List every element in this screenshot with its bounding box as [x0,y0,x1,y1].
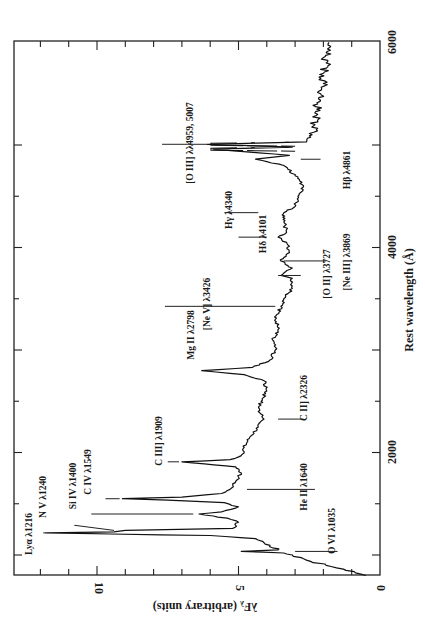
label-ovi: O VI λ1035 [327,508,337,554]
flux-tick-10: 10 [92,582,106,594]
label-ciii: C III] λ1909 [154,416,164,466]
label-oiii: [O III] λλ4959, 5007 [185,102,195,184]
label-civ: C IV λ1549 [83,449,93,495]
label-hg: Hγ λ4340 [224,191,234,229]
label-siiv: Si IV λ1400 [68,462,78,509]
label-neiii: [Ne III] λ3869 [342,233,352,290]
label-hb: Hβ λ4861 [342,151,352,190]
label-lya: Lyα λ1216 [24,513,34,555]
x-axis-title: Rest wavelength (Å) [402,248,416,351]
spectrum-chart: 0 5 10 2000 4000 6000 Rest wavelength (Å… [0,0,425,619]
label-nev: [Ne V] λ3426 [202,277,212,330]
label-mgii: Mg II λ2798 [186,310,196,360]
flux-tick-0: 0 [374,585,388,591]
wavelength-tick-6000: 6000 [385,30,399,54]
label-oii: [O II] λ3727 [322,249,332,299]
label-heii: He II λ1640 [299,463,309,511]
y-axis-title: λFλ (arbitrary units) [153,599,258,614]
label-cii: C II] λ2326 [299,375,309,421]
emission-labels: Lyα λ1216 N V λ1240 Si IV λ1400 C IV λ15… [24,102,352,555]
label-hd: Hδ λ4101 [258,215,268,254]
label-nv: N V λ1240 [38,476,48,518]
wavelength-tick-4000: 4000 [385,235,399,259]
flux-tick-5: 5 [233,585,247,591]
wavelength-tick-2000: 2000 [385,440,399,464]
